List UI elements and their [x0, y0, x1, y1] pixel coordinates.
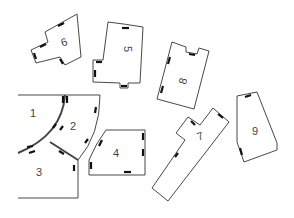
piece-5: 5	[93, 22, 143, 88]
piece-4: 4	[89, 130, 145, 175]
piece-label-5: 5	[122, 46, 134, 52]
pattern-diagram: 6 5 8 7 9 4	[0, 0, 294, 218]
piece-label-6: 6	[59, 35, 69, 48]
piece-label-1: 1	[30, 107, 36, 119]
piece-9: 9	[237, 92, 277, 162]
piece-group-1-2-3: 1 2 3	[18, 95, 100, 198]
piece-label-2: 2	[70, 120, 76, 132]
piece-label-3: 3	[36, 166, 42, 178]
piece-6: 6	[31, 14, 81, 65]
piece-label-8: 8	[176, 76, 189, 85]
piece-label-7: 7	[195, 129, 205, 142]
piece-label-4: 4	[113, 147, 119, 159]
piece-7: 7	[152, 108, 229, 201]
piece-8: 8	[157, 42, 209, 109]
piece-label-9: 9	[252, 125, 258, 137]
